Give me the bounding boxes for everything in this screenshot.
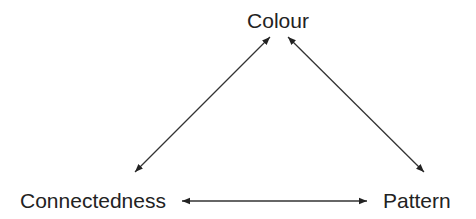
edge-colour-pattern (288, 37, 424, 172)
node-connectedness: Connectedness (20, 189, 166, 212)
node-colour: Colour (247, 9, 309, 32)
diagram-canvas: Colour Connectedness Pattern (0, 0, 476, 219)
diagram-svg: Colour Connectedness Pattern (0, 0, 476, 219)
edge-colour-connectedness (135, 37, 270, 172)
node-pattern: Pattern (383, 189, 451, 212)
